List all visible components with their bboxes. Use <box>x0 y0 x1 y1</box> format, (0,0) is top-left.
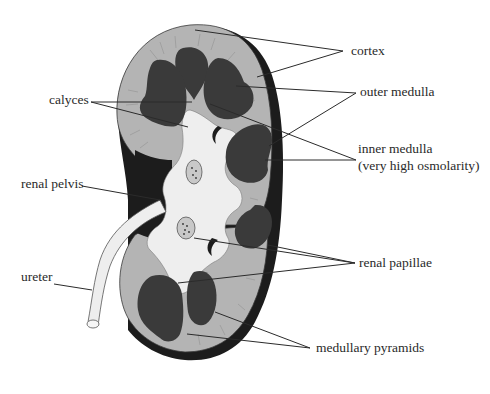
label-ureter: ureter <box>21 269 53 284</box>
label-inner-medulla: inner medulla <box>358 141 433 156</box>
label-cortex: cortex <box>351 43 385 58</box>
label-calyces: calyces <box>49 92 89 107</box>
label-renal-pelvis: renal pelvis <box>21 176 84 191</box>
vessel-upper <box>186 160 202 184</box>
ureter-opening <box>87 320 99 328</box>
label-renal-papillae: renal papillae <box>359 255 432 270</box>
label-inner-medulla-osmolarity: (very high osmolarity) <box>358 158 479 173</box>
kidney-diagram: cortex outer medulla inner medulla (very… <box>0 0 490 394</box>
vessel-lower <box>177 217 195 239</box>
label-medullary-pyramids: medullary pyramids <box>316 340 424 355</box>
label-outer-medulla: outer medulla <box>360 84 435 99</box>
